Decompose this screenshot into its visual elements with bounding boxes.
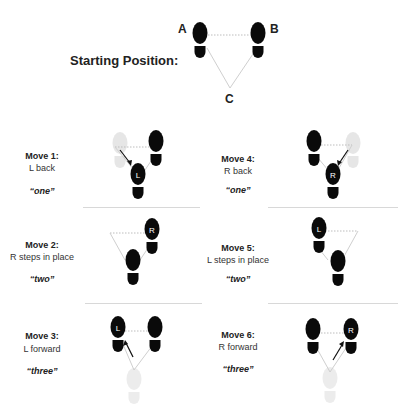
ghost-right-shoe-icon [323,367,338,403]
svg-text:R: R [348,326,354,335]
move-6-diagram: R [0,0,417,410]
left-shoe-icon [306,318,321,354]
right-shoe-icon [344,318,359,354]
